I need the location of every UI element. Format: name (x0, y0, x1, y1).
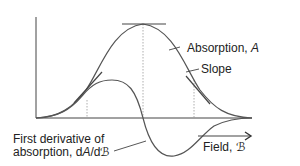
right-slope-tangent (186, 76, 210, 104)
left-slope-tangent (74, 72, 102, 103)
absorption-leader (169, 47, 180, 50)
derivative-label-line2: absorption, dA/dℬ (13, 146, 109, 159)
field-axis-label: Field, ℬ (203, 141, 245, 154)
derivative-leader (114, 141, 146, 151)
absorption-label: Absorption, A (187, 42, 259, 55)
slope-label: Slope (201, 63, 232, 76)
